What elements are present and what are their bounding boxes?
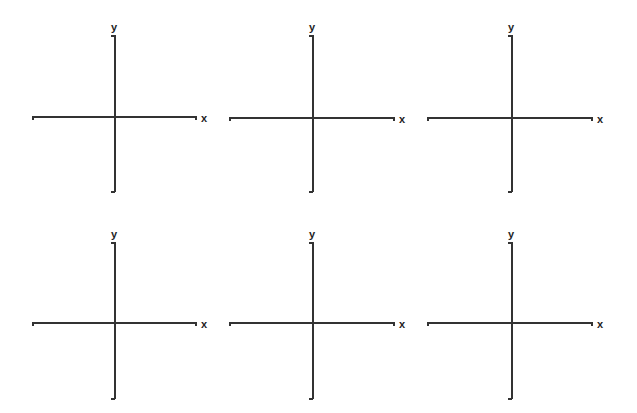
y-axis-label: y <box>309 229 315 240</box>
x-axis-left-end-tick <box>427 117 429 121</box>
x-axis-label: x <box>201 319 207 330</box>
x-axis-label: x <box>399 114 405 125</box>
y-axis-bottom-end-tick <box>309 191 313 193</box>
y-axis-label: y <box>111 229 117 240</box>
y-axis-line <box>312 242 314 399</box>
y-axis-line <box>114 242 116 399</box>
y-axis-top-end-tick <box>111 35 115 37</box>
y-axis-line <box>511 35 513 192</box>
x-axis-label: x <box>597 319 603 330</box>
y-axis-bottom-end-tick <box>508 191 512 193</box>
y-axis-bottom-end-tick <box>508 398 512 400</box>
y-axis-label: y <box>309 22 315 33</box>
x-axis-left-end-tick <box>229 322 231 326</box>
x-axis-line <box>427 322 592 324</box>
y-axis-label: y <box>508 229 514 240</box>
x-axis-left-end-tick <box>32 116 34 120</box>
y-axis-label: y <box>508 22 514 33</box>
y-axis-line <box>511 242 513 399</box>
x-axis-label: x <box>597 114 603 125</box>
y-axis-bottom-end-tick <box>111 398 115 400</box>
x-axis-left-end-tick <box>32 322 34 326</box>
y-axis-bottom-end-tick <box>309 398 313 400</box>
y-axis-label: y <box>111 22 117 33</box>
x-axis-right-end-tick <box>195 116 197 120</box>
y-axis-top-end-tick <box>111 242 115 244</box>
x-axis-label: x <box>399 319 405 330</box>
x-axis-label: x <box>201 113 207 124</box>
y-axis-top-end-tick <box>508 242 512 244</box>
x-axis-left-end-tick <box>427 322 429 326</box>
y-axis-line <box>114 35 116 192</box>
x-axis-right-end-tick <box>591 322 593 326</box>
y-axis-bottom-end-tick <box>111 191 115 193</box>
x-axis-right-end-tick <box>591 117 593 121</box>
y-axis-top-end-tick <box>309 242 313 244</box>
x-axis-left-end-tick <box>229 117 231 121</box>
y-axis-line <box>312 35 314 192</box>
x-axis-line <box>427 117 592 119</box>
x-axis-right-end-tick <box>195 322 197 326</box>
x-axis-right-end-tick <box>393 322 395 326</box>
y-axis-top-end-tick <box>508 35 512 37</box>
x-axis-right-end-tick <box>393 117 395 121</box>
y-axis-top-end-tick <box>309 35 313 37</box>
